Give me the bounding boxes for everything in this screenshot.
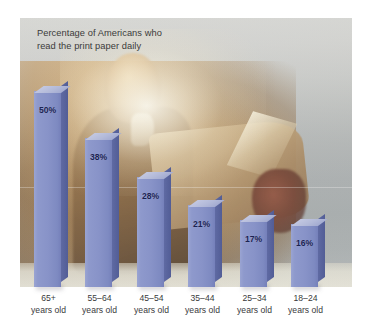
category-label-2: 55–64 years old [74, 293, 125, 316]
plot-area: 50%38%28%21%17%16% [20, 18, 352, 287]
category-label-3: 45–54 years old [126, 293, 177, 316]
bar-value-label: 16% [291, 238, 318, 248]
bar-3: 28% [137, 177, 164, 287]
bar-front-face [240, 220, 267, 287]
bar-side-face [112, 128, 119, 282]
bar-body [188, 205, 215, 287]
bar-value-label: 50% [34, 105, 61, 115]
bar-body [240, 220, 267, 287]
bar-side-face [164, 167, 171, 282]
bar-front-face [291, 224, 318, 287]
bar-6: 16% [291, 224, 318, 287]
bar-4: 21% [188, 205, 215, 287]
category-label-1: 65+ years old [23, 293, 74, 316]
chart-figure: Percentage of Americans who read the pri… [0, 0, 370, 336]
bar-value-label: 21% [188, 219, 215, 229]
bar-front-face [188, 205, 215, 287]
bar-5: 17% [240, 220, 267, 287]
bar-value-label: 38% [85, 152, 112, 162]
bar-side-face [215, 195, 222, 282]
category-label-6: 18–24 years old [280, 293, 331, 316]
bar-1: 50% [34, 91, 61, 287]
bar-body [291, 224, 318, 287]
bar-value-label: 28% [137, 191, 164, 201]
bar-front-face [34, 91, 61, 287]
bar-2: 38% [85, 138, 112, 287]
category-label-5: 25–34 years old [229, 293, 280, 316]
bar-value-label: 17% [240, 234, 267, 244]
category-label-4: 35–44 years old [177, 293, 228, 316]
bar-body [34, 91, 61, 287]
bar-side-face [61, 81, 68, 282]
